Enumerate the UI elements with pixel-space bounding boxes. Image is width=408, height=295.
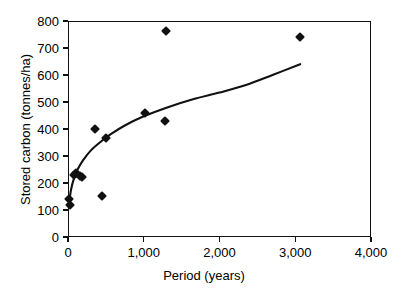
y-tick-label-100: 100 xyxy=(0,204,59,217)
data-point xyxy=(160,116,170,126)
y-tick-200 xyxy=(63,182,68,183)
x-tick-label-4,000: 4,000 xyxy=(341,246,401,259)
x-tick-label-2,000: 2,000 xyxy=(190,246,250,259)
y-tick-600 xyxy=(63,74,68,75)
data-point xyxy=(77,172,87,182)
y-tick-400 xyxy=(63,128,68,129)
data-point xyxy=(140,108,150,118)
chart-figure: 0100200300400500600700800 01,0002,0003,0… xyxy=(0,0,408,295)
data-point xyxy=(90,124,100,134)
data-point xyxy=(161,26,171,36)
y-tick-label-800: 800 xyxy=(0,15,59,28)
data-point xyxy=(295,32,305,42)
y-tick-300 xyxy=(63,155,68,156)
y-tick-500 xyxy=(63,101,68,102)
plot-frame-top-border xyxy=(68,21,371,22)
x-tick-4,000 xyxy=(370,237,371,242)
x-tick-3,000 xyxy=(295,237,296,242)
y-tick-label-700: 700 xyxy=(0,42,59,55)
x-tick-label-3,000: 3,000 xyxy=(265,246,325,259)
y-axis-title: Stored carbon (tonnes/ha) xyxy=(18,54,33,205)
x-tick-1,000 xyxy=(143,237,144,242)
y-tick-label-0: 0 xyxy=(0,231,59,244)
x-tick-0 xyxy=(67,237,68,242)
data-point xyxy=(97,191,107,201)
data-point xyxy=(101,133,111,143)
plot-frame-right-border xyxy=(370,21,371,237)
y-tick-700 xyxy=(63,47,68,48)
x-tick-2,000 xyxy=(219,237,220,242)
x-axis-title: Period (years) xyxy=(0,268,408,283)
x-tick-label-1,000: 1,000 xyxy=(114,246,174,259)
y-tick-100 xyxy=(63,209,68,210)
y-tick-800 xyxy=(63,20,68,21)
x-tick-label-0: 0 xyxy=(38,246,98,259)
